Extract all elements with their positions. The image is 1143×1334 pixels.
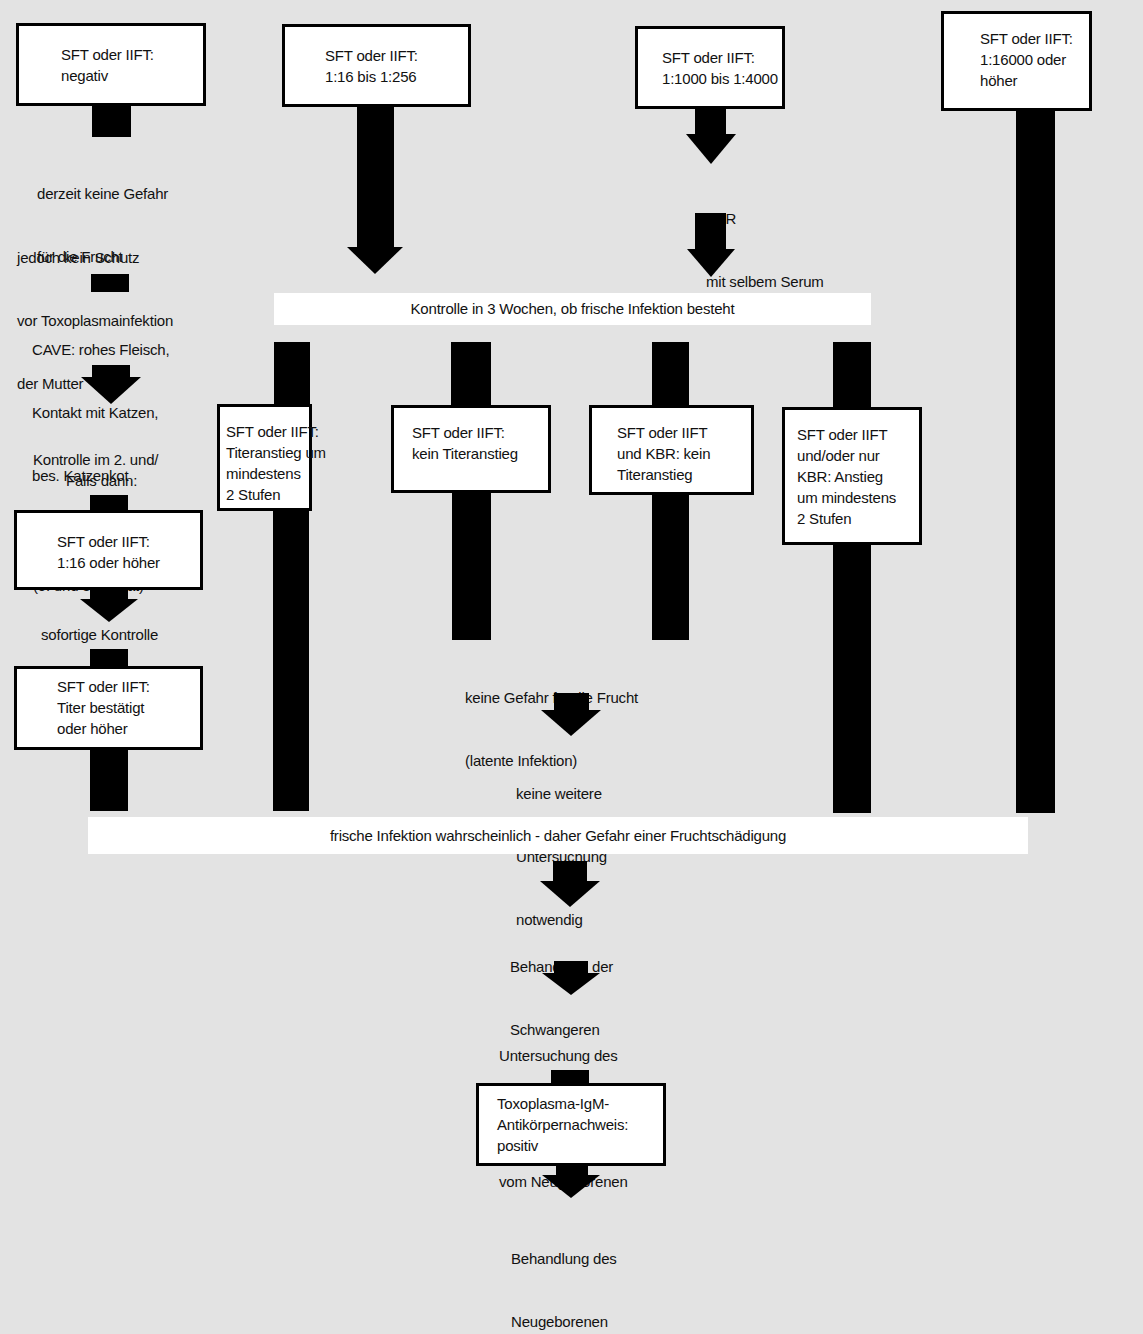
arrow-shaft <box>553 861 587 881</box>
note-line: Neugeborenen <box>511 1311 617 1332</box>
arrow-shaft <box>554 693 589 710</box>
box-line: SFT oder IIFT: <box>226 421 309 442</box>
arrow-shaft <box>554 961 588 973</box>
box-line: 1:16 oder höher <box>57 552 200 573</box>
note-if-then: Falls dann: <box>66 470 137 491</box>
box-titer-rise: SFT oder IIFT: Titeranstieg um mindesten… <box>217 404 312 511</box>
box-line: und KBR: kein <box>617 443 751 464</box>
arrow-down-icon <box>80 599 138 622</box>
box-line: 1:16000 oder <box>980 49 1089 70</box>
box-line: SFT oder IIFT: <box>980 28 1089 49</box>
box-line: positiv <box>497 1135 663 1156</box>
banner-fresh-infection: frische Infektion wahrscheinlich - daher… <box>88 817 1028 854</box>
box-no-titer-rise: SFT oder IIFT: kein Titeranstieg <box>391 405 551 493</box>
arrow-down-icon <box>81 377 141 404</box>
box-titer-16-256: SFT oder IIFT: 1:16 bis 1:256 <box>282 24 471 107</box>
box-titer-16000: SFT oder IIFT: 1:16000 oder höher <box>941 11 1092 111</box>
connector-bar <box>91 274 129 292</box>
box-line: Toxoplasma-IgM- <box>497 1093 663 1114</box>
arrow-shaft <box>90 589 128 599</box>
box-line: 1:16 bis 1:256 <box>325 66 468 87</box>
note-immediate-check: sofortige Kontrolle <box>41 624 158 645</box>
connector-bar <box>92 106 131 137</box>
connector-bar <box>652 494 689 640</box>
box-line: negativ <box>61 65 203 86</box>
note-line: keine Gefahr für die Frucht <box>465 687 638 708</box>
arrow-down-icon <box>542 1175 600 1198</box>
box-line: KBR: Anstieg <box>797 466 919 487</box>
box-line: oder höher <box>57 718 200 739</box>
box-line: 2 Stufen <box>797 508 919 529</box>
arrow-shaft <box>695 108 726 134</box>
box-line: um mindestens <box>797 487 919 508</box>
connector-bar <box>1016 111 1055 813</box>
connector-bar <box>90 649 128 667</box>
box-titer-16-or-higher: SFT oder IIFT: 1:16 oder höher <box>14 510 203 590</box>
connector-bar <box>274 342 310 406</box>
connector-bar <box>833 545 871 813</box>
arrow-down-icon <box>541 710 601 736</box>
box-line: mindestens <box>226 463 309 484</box>
connector-bar <box>551 1070 589 1084</box>
box-kbr-rise: SFT oder IIFT und/oder nur KBR: Anstieg … <box>782 407 922 545</box>
step-treat-newborn: Behandlung des Neugeborenen <box>511 1206 617 1334</box>
box-line: Titer bestätigt <box>57 697 200 718</box>
box-line: Titeranstieg um <box>226 442 309 463</box>
note-line: CAVE: rohes Fleisch, <box>32 339 169 360</box>
box-line: SFT oder IIFT: <box>57 676 200 697</box>
connector-bar <box>273 511 309 811</box>
arrow-shaft <box>357 107 394 247</box>
connector-bar <box>90 749 128 811</box>
arrow-shaft <box>92 365 130 377</box>
banner-text: frische Infektion wahrscheinlich - daher… <box>330 827 786 844</box>
box-line: SFT oder IIFT: <box>57 531 200 552</box>
banner-control-3-weeks: Kontrolle in 3 Wochen, ob frische Infekt… <box>274 293 871 325</box>
arrow-down-icon <box>347 247 403 274</box>
banner-text: Kontrolle in 3 Wochen, ob frische Infekt… <box>411 300 735 317</box>
box-line: und/oder nur <box>797 445 919 466</box>
box-line: Titeranstieg <box>617 464 751 485</box>
connector-bar <box>833 342 871 408</box>
box-line: SFT oder IIFT: <box>325 45 468 66</box>
box-igm-positive: Toxoplasma-IgM- Antikörpernachweis: posi… <box>476 1083 666 1166</box>
box-line: Antikörpernachweis: <box>497 1114 663 1135</box>
note-line: jedoch kein Schutz <box>17 247 173 268</box>
box-titer-confirmed: SFT oder IIFT: Titer bestätigt oder höhe… <box>14 666 203 750</box>
arrow-shaft <box>556 1165 588 1175</box>
box-line: 2 Stufen <box>226 484 309 505</box>
arrow-down-icon <box>687 249 735 277</box>
connector-bar <box>451 342 491 406</box>
connector-bar <box>652 342 689 406</box>
note-line: derzeit keine Gefahr <box>37 183 168 204</box>
connector-bar <box>452 492 491 640</box>
note-line: Behandlung des <box>511 1248 617 1269</box>
arrow-shaft <box>695 213 726 249</box>
box-titer-1000-4000: SFT oder IIFT: 1:1000 bis 1:4000 <box>635 26 785 109</box>
box-line: SFT oder IIFT <box>617 422 751 443</box>
arrow-down-icon <box>540 881 600 907</box>
arrow-down-icon <box>686 134 736 164</box>
box-kbr-no-rise: SFT oder IIFT und KBR: kein Titeranstieg <box>589 405 754 495</box>
box-line: kein Titeranstieg <box>412 443 548 464</box>
box-line: SFT oder IIFT: <box>412 422 548 443</box>
box-titer-negative: SFT oder IIFT: negativ <box>16 23 206 106</box>
note-line: Untersuchung des <box>499 1045 628 1066</box>
arrow-down-icon <box>542 973 600 995</box>
box-line: SFT oder IIFT <box>797 424 919 445</box>
box-line: SFT oder IIFT: <box>61 44 203 65</box>
note-line: Kontrolle im 2. und/ <box>33 449 158 470</box>
box-line: höher <box>980 70 1089 91</box>
box-line: SFT oder IIFT: <box>662 47 782 68</box>
connector-bar <box>90 495 128 511</box>
note-line: keine weitere <box>516 783 607 804</box>
box-line: 1:1000 bis 1:4000 <box>662 68 782 89</box>
